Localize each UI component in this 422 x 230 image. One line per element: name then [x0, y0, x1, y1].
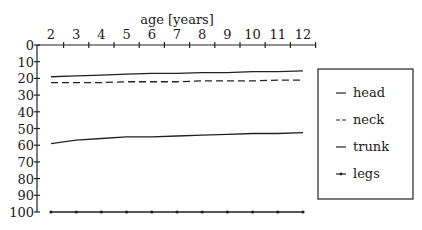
x-tick-label: 5 — [122, 27, 130, 42]
data-point-legs — [251, 210, 254, 213]
x-tick-label: 8 — [198, 27, 206, 42]
series-line-head — [51, 71, 303, 77]
y-tick-label: 0 — [26, 38, 34, 53]
y-tick-label: 100 — [9, 205, 34, 220]
y-axis-ticks: 0102030405060708090100 — [9, 38, 40, 220]
x-tick-label: 10 — [244, 27, 261, 42]
data-point-legs — [75, 210, 78, 213]
x-tick-label: 4 — [97, 27, 105, 42]
chart: age [years] 23456789101112 0102030405060… — [0, 0, 422, 230]
y-tick-label: 30 — [17, 88, 34, 103]
data-point-legs — [49, 210, 52, 213]
x-tick-label: 6 — [148, 27, 156, 42]
x-tick-label: 7 — [173, 27, 181, 42]
data-point-legs — [175, 210, 178, 213]
legend-item-legs: legs — [336, 166, 380, 181]
legend-label: neck — [353, 112, 384, 127]
data-point-legs — [125, 210, 128, 213]
data-point-legs — [226, 210, 229, 213]
series-group — [49, 71, 304, 214]
data-point-legs — [276, 210, 279, 213]
y-tick-label: 50 — [17, 122, 34, 137]
x-tick-label: 9 — [223, 27, 231, 42]
legend: headnecktrunklegs — [318, 69, 413, 199]
legend-label: trunk — [353, 139, 389, 154]
x-tick-label: 11 — [270, 27, 287, 42]
x-axis-title: age [years] — [140, 12, 214, 27]
y-tick-label: 70 — [17, 155, 34, 170]
legend-label: legs — [353, 166, 380, 181]
x-tick-label: 2 — [47, 27, 55, 42]
data-point-legs — [150, 210, 153, 213]
series-line-neck — [51, 80, 303, 83]
data-point-legs — [100, 210, 103, 213]
data-point-legs — [301, 210, 304, 213]
y-tick-label: 10 — [17, 55, 34, 70]
y-tick-label: 80 — [17, 172, 34, 187]
legend-item-trunk: trunk — [336, 139, 389, 154]
y-tick-label: 20 — [17, 71, 34, 86]
y-tick-label: 40 — [17, 105, 34, 120]
legend-item-neck: neck — [336, 112, 384, 127]
y-tick-label: 60 — [17, 138, 34, 153]
legend-item-head: head — [336, 85, 385, 100]
series-line-trunk — [51, 133, 303, 144]
legend-label: head — [353, 85, 385, 100]
x-tick-label: 12 — [295, 27, 312, 42]
y-tick-label: 90 — [17, 188, 34, 203]
data-point-legs — [201, 210, 204, 213]
legend-marker — [340, 173, 343, 176]
x-tick-label: 3 — [72, 27, 80, 42]
